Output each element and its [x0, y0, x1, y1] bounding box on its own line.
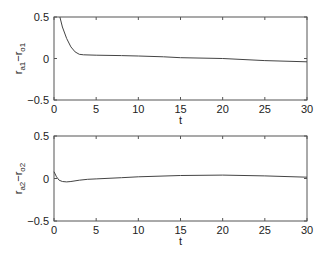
y-tick-label: 0.5: [34, 11, 49, 23]
x-tick-label: 25: [259, 103, 271, 115]
x-tick-label: 5: [93, 224, 99, 236]
chart-canvas: 0510152025300.50−0.5tra1−ro1051015202530…: [0, 0, 326, 259]
x-tick-label: 30: [301, 103, 313, 115]
x-tick-label: 0: [51, 103, 57, 115]
y-axis-label: ra2−ro2: [12, 162, 27, 194]
plot-frame-bottom: [54, 136, 307, 221]
y-axis-label: ra1−ro1: [12, 42, 27, 74]
series-line: [60, 17, 307, 62]
y-tick-label: −0.5: [27, 94, 49, 106]
y-tick-label: 0.5: [34, 130, 49, 142]
x-axis-label: t: [179, 235, 182, 247]
x-tick-label: 20: [217, 103, 229, 115]
x-tick-label: 10: [132, 103, 144, 115]
x-tick-label: 30: [301, 224, 313, 236]
y-tick-label: 0: [43, 53, 49, 65]
x-axis-label: t: [179, 114, 182, 126]
x-tick-label: 0: [51, 224, 57, 236]
x-tick-label: 10: [132, 224, 144, 236]
plot-frame-top: [54, 17, 307, 100]
x-tick-label: 5: [93, 103, 99, 115]
y-tick-label: −0.5: [27, 215, 49, 227]
series-line: [54, 172, 307, 182]
x-tick-label: 25: [259, 224, 271, 236]
x-tick-label: 20: [217, 224, 229, 236]
y-tick-label: 0: [43, 173, 49, 185]
